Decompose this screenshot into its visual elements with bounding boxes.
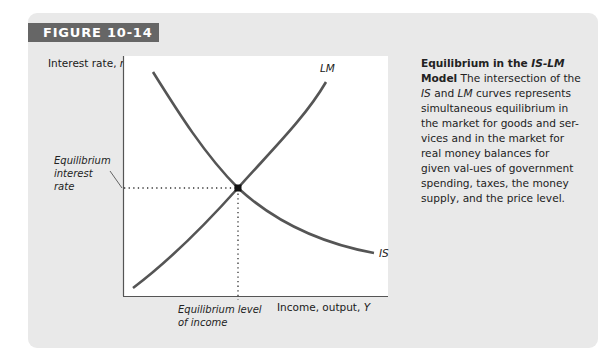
equilibrium-point [235, 185, 242, 192]
figure-caption: Equilibrium in the IS-LM Model The inter… [421, 56, 581, 206]
is-curve [153, 72, 374, 253]
equilibrium-rate-annotation: Equilibrium interest rate [54, 154, 124, 193]
lm-label: LM [320, 62, 335, 74]
x-axis-label: Income, output, Y [277, 301, 370, 313]
lm-curve [133, 82, 326, 288]
equilibrium-income-annotation: Equilibrium level of income [178, 303, 268, 329]
is-label: IS [379, 247, 389, 259]
